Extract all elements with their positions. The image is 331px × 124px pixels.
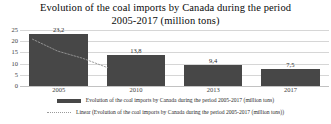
x-axis-tick-label: 2013 [175, 86, 252, 94]
y-axis-tick-label: 25 [12, 27, 19, 34]
bar[interactable] [261, 69, 320, 86]
trendline [20, 30, 120, 86]
legend-entry-bar-series: Evolution of the coal imports by Canada … [0, 97, 331, 104]
chart-title-line-1: Evolution of the coal imports by Canada … [0, 1, 331, 14]
legend-entry-trendline-series: Linear (Evolution of the coal imports by… [0, 109, 331, 116]
y-axis-tick-label: 0 [15, 83, 18, 90]
chart-container: Evolution of the coal imports by Canada … [0, 0, 331, 124]
x-axis-tick-label: 2017 [252, 86, 329, 94]
y-axis-tick-label: 20 [12, 38, 19, 45]
dotted-line-swatch-icon [47, 112, 71, 113]
x-axis: 2005201020132017 [20, 86, 329, 96]
chart-title-line-2: 2005-2017 (million tons) [0, 14, 331, 27]
x-axis-tick-label: 2005 [20, 86, 97, 94]
legend-label-trendline-series: Linear (Evolution of the coal imports by… [76, 109, 284, 116]
chart-title: Evolution of the coal imports by Canada … [0, 1, 331, 27]
x-axis-tick-label: 2010 [97, 86, 174, 94]
bar-slot: 7,5 [252, 30, 329, 86]
chart-legend: Evolution of the coal imports by Canada … [0, 97, 331, 123]
plot-area: 2520151050 23,213,89,47,5 [0, 30, 331, 86]
bar-value-label: 7,5 [252, 61, 329, 68]
bar-value-label: 9,4 [175, 57, 252, 64]
legend-label-bar-series: Evolution of the coal imports by Canada … [86, 97, 274, 104]
bar[interactable] [184, 65, 243, 86]
y-axis-tick-label: 15 [12, 49, 19, 56]
y-axis-tick-label: 5 [15, 72, 18, 79]
y-axis-tick-label: 10 [12, 60, 19, 67]
y-axis: 2520151050 [0, 30, 20, 86]
solid-bar-swatch-icon [57, 99, 81, 103]
bar-slot: 9,4 [175, 30, 252, 86]
